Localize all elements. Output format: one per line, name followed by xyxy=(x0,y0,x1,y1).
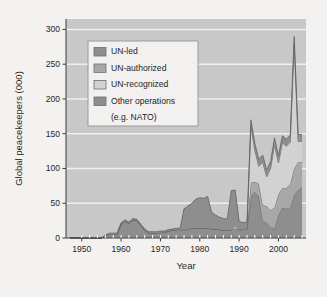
legend-label-4: (e.g. NATO) xyxy=(111,112,157,122)
y-tick-label: 150 xyxy=(46,129,61,139)
x-tick-label: 2000 xyxy=(269,244,288,254)
chart-figure: 0501001502002503001950196019701980199020… xyxy=(0,0,327,297)
y-tick-label: 250 xyxy=(46,59,61,69)
x-tick-label: 1980 xyxy=(190,244,209,254)
peacekeepers-area-chart: 0501001502002503001950196019701980199020… xyxy=(0,0,327,297)
legend-label-2: UN-recognized xyxy=(111,79,169,89)
x-tick-label: 1960 xyxy=(112,244,131,254)
legend-label-3: Other operations xyxy=(111,96,175,106)
legend-label-0: UN-led xyxy=(111,46,138,56)
legend-swatch-1 xyxy=(94,64,106,73)
y-tick-label: 50 xyxy=(50,198,60,208)
y-tick-label: 100 xyxy=(46,163,61,173)
legend-swatch-0 xyxy=(94,48,106,57)
x-axis-title: Year xyxy=(176,260,195,271)
legend-label-1: UN-authorized xyxy=(111,63,167,73)
series-legend: UN-ledUN-authorizedUN-recognizedOther op… xyxy=(88,41,198,126)
x-tick-label: 1950 xyxy=(72,244,91,254)
x-tick-label: 1970 xyxy=(151,244,170,254)
y-axis-title: Global peacekeepers (000) xyxy=(13,71,24,186)
x-tick-label: 1990 xyxy=(230,244,249,254)
y-tick-label: 300 xyxy=(46,24,61,34)
y-tick-label: 0 xyxy=(55,233,60,243)
y-tick-label: 200 xyxy=(46,94,61,104)
legend-swatch-3 xyxy=(94,97,106,106)
legend-swatch-2 xyxy=(94,81,106,90)
